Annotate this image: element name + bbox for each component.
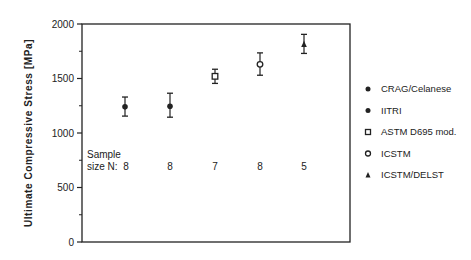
filled-circle-marker <box>167 103 173 109</box>
y-tick-label: 1500 <box>52 73 75 84</box>
y-tick-label: 500 <box>57 182 74 193</box>
legend-item: CRAG/Celanese <box>366 83 452 94</box>
open-circle-marker <box>366 151 371 156</box>
y-axis: 0500100015002000 <box>52 19 82 248</box>
open-square-marker <box>212 74 218 80</box>
sample-label-line1: Sample <box>87 149 121 160</box>
legend-label: IITRI <box>381 105 402 116</box>
data-point <box>122 97 128 116</box>
data-point <box>301 34 307 53</box>
legend-label: ICSTM <box>381 148 411 159</box>
filled-circle-marker <box>366 87 371 92</box>
sample-size-value: 7 <box>212 161 218 172</box>
legend-item: ICSTM/DELST <box>366 169 445 180</box>
sample-size-values: 88785 <box>123 161 307 172</box>
sample-label-line2: size N: <box>87 161 118 172</box>
open-square-marker <box>366 130 371 135</box>
sample-size-value: 5 <box>301 161 307 172</box>
data-point <box>257 53 263 75</box>
legend-item: IITRI <box>366 105 402 116</box>
sample-size-value: 8 <box>167 161 173 172</box>
sample-size-value: 8 <box>257 161 263 172</box>
legend: CRAG/CelaneseIITRIASTM D695 mod.ICSTMICS… <box>366 83 457 180</box>
legend-label: CRAG/Celanese <box>381 83 451 94</box>
filled-circle-marker <box>366 108 371 113</box>
filled-triangle-marker <box>366 172 371 178</box>
y-tick-label: 2000 <box>52 19 75 30</box>
data-points <box>122 34 307 117</box>
y-tick-label: 0 <box>68 237 74 248</box>
data-point <box>212 69 218 83</box>
data-point <box>167 93 173 117</box>
legend-item: ASTM D695 mod. <box>366 126 457 137</box>
sample-size-value: 8 <box>123 161 129 172</box>
legend-label: ICSTM/DELST <box>381 169 444 180</box>
open-circle-marker <box>257 62 263 68</box>
legend-item: ICSTM <box>366 148 411 159</box>
y-axis-label: Ultimate Compressive Stress [MPa] <box>23 39 34 227</box>
legend-label: ASTM D695 mod. <box>381 126 457 137</box>
filled-triangle-marker <box>301 41 307 47</box>
y-tick-label: 1000 <box>52 128 75 139</box>
plot-frame <box>82 24 350 242</box>
chart: 0500100015002000 Ultimate Compressive St… <box>0 0 471 260</box>
filled-circle-marker <box>122 104 128 110</box>
